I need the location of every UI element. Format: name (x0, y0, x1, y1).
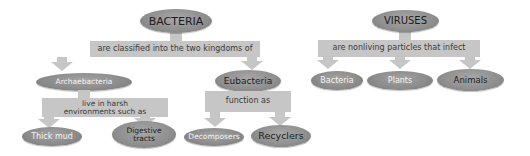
node-label: Archaebacteria (56, 78, 113, 86)
node-decomposers: Decomposers (184, 128, 244, 146)
viruses-link-label: are nonliving particles that infect (333, 44, 466, 52)
node-viruses: VIRUSES (372, 10, 439, 32)
viruses-link-bar: are nonliving particles that infect (318, 40, 480, 57)
node-thick-mud: Thick mud (22, 127, 82, 146)
node-label: Digestive tracts (124, 127, 164, 142)
node-label: Plants (388, 77, 412, 85)
node-label: Thick mud (31, 133, 73, 141)
node-label: Recyclers (258, 131, 303, 141)
arrow-down-icon (317, 60, 339, 69)
node-label: VIRUSES (384, 16, 427, 26)
arrow-down-icon (51, 62, 73, 71)
node-animals: Animals (437, 69, 504, 91)
bacteria-link-bar: are classified into the two kingdoms of (90, 41, 260, 57)
node-eubacteria: Eubacteria (215, 70, 281, 92)
arrow-down-icon (459, 60, 481, 69)
eubacteria-link-bar: function as (205, 91, 291, 112)
node-digestive-tracts: Digestive tracts (112, 121, 176, 148)
node-bacteria-target: Bacteria (311, 71, 363, 90)
node-plants: Plants (367, 71, 433, 90)
eubacteria-link-label: function as (226, 97, 270, 105)
node-label: BACTERIA (149, 16, 204, 27)
node-label: Eubacteria (224, 77, 272, 86)
arrow-down-icon (241, 61, 263, 70)
node-bacteria: BACTERIA (140, 9, 212, 33)
node-label: Bacteria (320, 77, 353, 85)
bacteria-link-label: are classified into the two kingdoms of (98, 45, 253, 53)
concept-map: are classified into the two kingdoms of … (0, 0, 530, 156)
node-label: Decomposers (188, 133, 239, 141)
archaebacteria-link-label: live in harsh environments such as (62, 100, 148, 116)
arrow-down-icon (389, 60, 411, 69)
node-label: Animals (454, 76, 488, 85)
arrow-down-icon (204, 118, 226, 127)
node-archaebacteria: Archaebacteria (36, 73, 132, 91)
archaebacteria-link-bar: live in harsh environments such as (42, 98, 168, 117)
node-recyclers: Recyclers (251, 125, 311, 147)
